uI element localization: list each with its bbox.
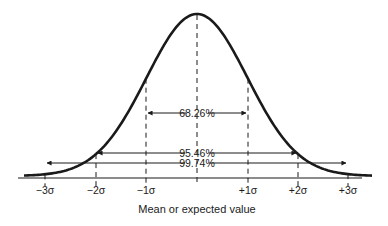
tick-plus-3-sigma: +3σ — [339, 184, 358, 196]
caption: Mean or expected value — [138, 203, 255, 215]
tick-minus-1-sigma: −1σ — [137, 184, 156, 196]
normal-distribution-diagram: 68.26% 95.46% 99.74% −3σ −2σ −1σ +1σ +2σ… — [0, 0, 388, 226]
range-99-label: 99.74% — [179, 157, 215, 169]
tick-plus-2-sigma: +2σ — [289, 184, 308, 196]
range-68: 68.26% — [148, 107, 246, 119]
tick-minus-2-sigma: −2σ — [87, 184, 106, 196]
tick-minus-3-sigma: −3σ — [36, 184, 55, 196]
tick-plus-1-sigma: +1σ — [239, 184, 258, 196]
range-68-label: 68.26% — [179, 107, 215, 119]
